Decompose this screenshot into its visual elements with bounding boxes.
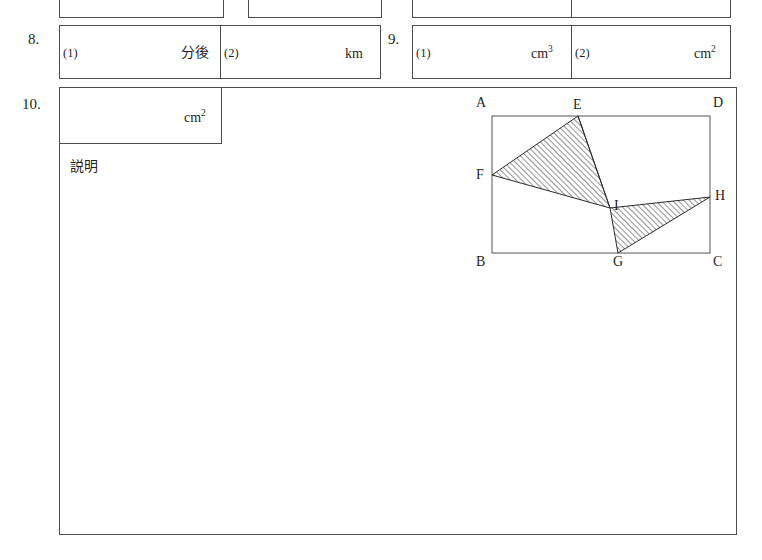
- row8-cell2-unit-text: km: [345, 46, 363, 61]
- geometry-figure-svg: [470, 95, 738, 285]
- row9-cell2-unit-text: cm: [694, 46, 711, 61]
- row7-cell-1-box[interactable]: [59, 0, 224, 18]
- row8-cell2-sublabel: (2): [224, 47, 239, 60]
- figure-label-I: I: [614, 199, 619, 213]
- row9-cell2-unit-exponent: 2: [711, 44, 716, 54]
- row10-explanation-label: 説明: [70, 159, 98, 173]
- row8-cell1-unit: 分後: [181, 45, 209, 59]
- figure-label-B: B: [476, 255, 485, 269]
- row9-cell2-unit: cm2: [694, 47, 716, 61]
- row7-cell-2-box[interactable]: [248, 0, 382, 18]
- figure-label-F: F: [476, 168, 484, 182]
- question-number-10: 10.: [22, 97, 41, 112]
- row8-cell2-unit: km: [345, 47, 363, 61]
- row9-cell1-unit-exponent: 3: [548, 44, 553, 54]
- row7-cell-3-divider: [571, 0, 572, 18]
- figure-label-D: D: [713, 96, 723, 110]
- figure-label-G: G: [613, 255, 623, 269]
- figure-label-C: C: [713, 255, 722, 269]
- row10-answer-unit-exponent: 2: [201, 108, 206, 118]
- figure-label-E: E: [573, 98, 582, 112]
- row9-cell1-unit: cm3: [531, 47, 553, 61]
- hatched-triangle-igh: [610, 197, 710, 253]
- row8-cell1-sublabel: (1): [63, 47, 78, 60]
- row9-cell2-sublabel: (2): [575, 47, 590, 60]
- hatched-triangle-efi: [492, 116, 610, 208]
- row9-divider: [571, 25, 572, 79]
- row9-cell1-unit-text: cm: [531, 46, 548, 61]
- question-number-9: 9.: [388, 32, 399, 47]
- row8-divider: [220, 25, 221, 79]
- answer-sheet-page: 8. (1) 分後 (2) km 9. (1) cm3 (2) cm2 10. …: [0, 0, 762, 560]
- row10-answer-unit: cm2: [184, 111, 206, 125]
- question-number-8: 8.: [28, 32, 39, 47]
- row9-cell1-sublabel: (1): [416, 47, 431, 60]
- figure-label-H: H: [715, 189, 725, 203]
- figure-label-A: A: [476, 96, 486, 110]
- row10-answer-unit-text: cm: [184, 110, 201, 125]
- geometry-figure: A D B C E F G H I: [470, 95, 738, 285]
